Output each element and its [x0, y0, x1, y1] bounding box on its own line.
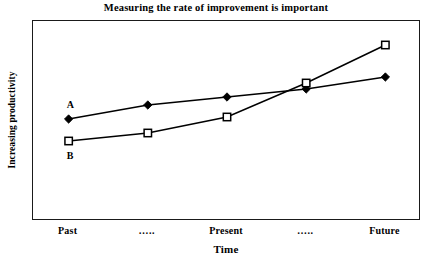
plot-svg: [33, 21, 421, 221]
series-layer: [64, 41, 389, 144]
data-point-marker-square: [302, 79, 309, 86]
x-tick-label-4: Future: [369, 224, 399, 237]
data-point-marker-square: [382, 41, 389, 48]
series-label-a: A: [67, 99, 74, 110]
chart-figure: Measuring the rate of improvement is imp…: [0, 0, 432, 267]
series-label-b: B: [67, 150, 74, 161]
y-axis-label-container: Increasing productivity: [2, 20, 22, 220]
data-point-marker-diamond: [144, 101, 152, 109]
data-point-marker-diamond: [223, 93, 231, 101]
data-point-marker-square: [65, 137, 72, 144]
data-point-marker-square: [223, 113, 230, 120]
x-tick-label-3: …..: [297, 224, 314, 237]
x-axis-tick-labels: Past…..Present…..Future: [32, 224, 420, 240]
chart-title: Measuring the rate of improvement is imp…: [0, 1, 432, 15]
data-point-marker-diamond: [381, 73, 389, 81]
plot-area: AB: [32, 20, 420, 220]
data-point-marker-diamond: [64, 115, 72, 123]
y-axis-label: Increasing productivity: [7, 71, 17, 168]
x-tick-label-1: …..: [139, 224, 156, 237]
x-axis-label: Time: [32, 243, 420, 255]
x-tick-label-2: Present: [209, 224, 242, 237]
x-tick-label-0: Past: [58, 224, 77, 237]
data-point-marker-square: [144, 129, 151, 136]
